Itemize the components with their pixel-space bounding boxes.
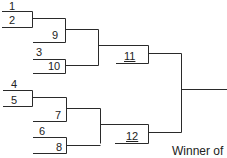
game-8-label: 8 (56, 142, 62, 153)
game-11-label: 11 (124, 51, 135, 62)
game-7-label: 7 (55, 110, 61, 121)
entrant-1-label: 1 (9, 1, 15, 12)
winner-caption: Winner of (172, 145, 223, 157)
entrant-4-label: 4 (11, 79, 17, 90)
game-9-label: 9 (52, 30, 58, 41)
game-12-label: 12 (126, 131, 138, 142)
game-10-label: 10 (48, 61, 60, 72)
entrant-6-label: 6 (39, 126, 45, 137)
entrant-3-label: 3 (36, 47, 42, 58)
entrant-2-label: 2 (9, 15, 15, 26)
bracket-lines (0, 0, 227, 158)
entrant-5-label: 5 (11, 95, 17, 106)
